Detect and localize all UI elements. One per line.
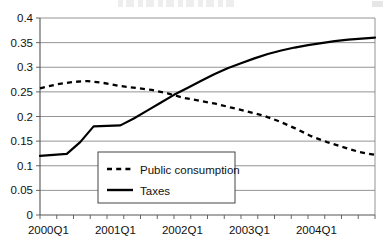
x-tick-label: 2001Q1 [95,224,136,236]
y-tick-label: 0.1 [17,160,33,172]
y-tick-label: 0.05 [11,184,33,196]
x-axis-tick-labels: 2000Q12001Q12002Q12003Q12004Q1 [28,224,337,236]
y-tick-label: 0.4 [17,12,34,24]
chart-legend: Public consumption Taxes [98,152,240,203]
y-tick-label: 0.3 [17,61,33,73]
y-tick-label: 0.2 [17,111,33,123]
y-tick-label: 0 [27,209,33,221]
x-axis-ticks [40,215,375,219]
y-axis-ticks [36,18,40,215]
x-tick-label: 2004Q1 [296,224,337,236]
x-tick-label: 2002Q1 [162,224,203,236]
x-tick-label: 2000Q1 [28,224,69,236]
y-tick-label: 0.35 [11,37,33,49]
y-tick-label: 0.25 [11,86,33,98]
legend-label-taxes: Taxes [140,185,170,197]
line-chart: 00.050.10.150.20.250.30.350.4 2000Q12001… [0,0,389,251]
y-axis-tick-labels: 00.050.10.150.20.250.30.350.4 [11,12,34,221]
legend-label-public-consumption: Public consumption [140,164,240,176]
y-tick-label: 0.15 [11,135,33,147]
x-tick-label: 2003Q1 [229,224,270,236]
chart-container: 00.050.10.150.20.250.30.350.4 2000Q12001… [0,0,389,251]
